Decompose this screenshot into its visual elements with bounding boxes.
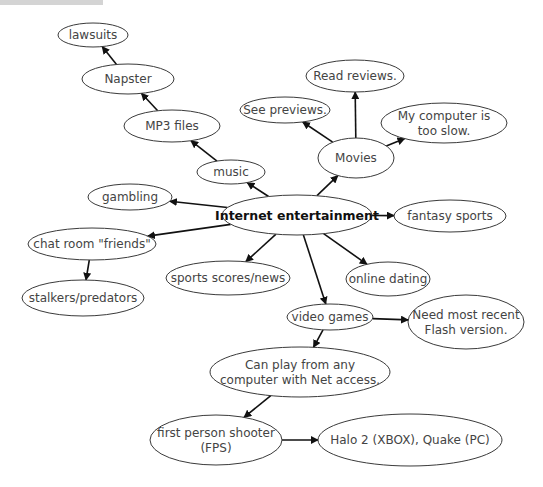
edge-internet-to-chat [148, 224, 231, 236]
node-label: Movies [335, 151, 377, 165]
node-chat: chat room "friends" [28, 228, 156, 260]
node-label: Napster [104, 72, 151, 86]
node-label: chat room "friends" [33, 237, 150, 251]
node-label: MP3 files [145, 119, 199, 133]
node-label: stalkers/predators [29, 291, 138, 305]
node-label: lawsuits [69, 28, 118, 42]
node-slow: My computer istoo slow. [381, 103, 507, 143]
node-label: (FPS) [200, 441, 231, 455]
edge-movies-to-reviews [355, 92, 356, 138]
node-label: online dating [349, 272, 428, 286]
edge-music-to-mp3 [191, 141, 217, 161]
node-reviews: Read reviews. [306, 60, 404, 92]
edge-movies-to-previews [303, 122, 333, 142]
node-internet: Internet entertainment [215, 195, 379, 235]
node-label: Read reviews. [313, 69, 397, 83]
node-dating: online dating [346, 262, 430, 296]
node-stalkers: stalkers/predators [22, 280, 144, 316]
edge-internet-to-videogames [303, 235, 325, 304]
node-movies: Movies [318, 138, 394, 178]
edge-napster-to-lawsuits [102, 47, 116, 65]
node-previews: See previews. [240, 97, 330, 123]
node-label: sports scores/news [171, 271, 286, 285]
edge-chat-to-stalkers [86, 260, 89, 280]
edge-videogames-to-anycomputer [314, 330, 324, 348]
node-label: computer with Net access. [220, 373, 380, 387]
node-label: too slow. [418, 124, 471, 138]
nodes: Internet entertainmentmusicMP3 filesNaps… [22, 23, 524, 466]
node-sports: sports scores/news [166, 261, 290, 295]
node-mp3: MP3 files [124, 110, 220, 142]
node-fps: first person shooter(FPS) [150, 415, 282, 465]
edge-mp3-to-napster [141, 93, 157, 110]
node-halo: Halo 2 (XBOX), Quake (PC) [318, 414, 502, 466]
node-label: gambling [102, 190, 158, 204]
node-videogames: video games [287, 304, 373, 330]
node-lawsuits: lawsuits [58, 23, 128, 47]
node-label: Flash version. [424, 323, 507, 337]
node-napster: Napster [82, 64, 174, 94]
edge-videogames-to-flash [373, 319, 409, 320]
edge-internet-to-music [247, 183, 268, 197]
node-label: Halo 2 (XBOX), Quake (PC) [330, 433, 490, 447]
node-fantasy: fantasy sports [394, 200, 506, 232]
node-label: fantasy sports [407, 209, 493, 223]
node-label: My computer is [398, 109, 491, 123]
edge-internet-to-sports [246, 234, 276, 262]
node-label: Internet entertainment [215, 208, 379, 223]
edge-anycomputer-to-fps [244, 396, 271, 418]
node-music: music [197, 160, 265, 184]
edge-movies-to-slow [386, 139, 404, 146]
edge-internet-to-dating [324, 234, 367, 265]
node-gambling: gambling [88, 184, 172, 210]
node-label: music [213, 165, 248, 179]
node-anycomputer: Can play from anycomputer with Net acces… [210, 347, 390, 397]
node-label: Need most recent [412, 308, 520, 322]
edge-internet-to-movies [317, 176, 338, 196]
node-label: See previews. [243, 103, 327, 117]
node-label: video games [292, 310, 369, 324]
node-label: Can play from any [245, 358, 355, 372]
node-flash: Need most recentFlash version. [408, 295, 524, 349]
concept-map: Internet entertainmentmusicMP3 filesNaps… [0, 0, 543, 487]
node-label: first person shooter [157, 426, 275, 440]
